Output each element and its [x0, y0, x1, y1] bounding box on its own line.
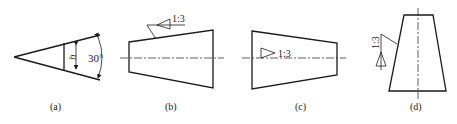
figure-d: [376, 8, 446, 99]
taper-label-b: 1:3: [172, 13, 185, 24]
taper-label-c: 1:3: [278, 48, 291, 59]
taper-label-d: 1:3: [370, 36, 381, 49]
caption-c: (c): [295, 101, 306, 113]
figure-b: [120, 19, 224, 88]
caption-d: (d): [410, 101, 422, 113]
taper-outline-b: [129, 30, 213, 88]
taper-outline-c: [252, 31, 337, 89]
taper-symbol-b: [157, 19, 170, 29]
taper-diagram: h 30° (a) 1:3 (b) 1:3 (c) 1:3 (d): [0, 0, 457, 124]
caption-b: (b): [165, 101, 177, 113]
caption-a: (a): [50, 101, 61, 113]
taper-symbol-c: [261, 48, 275, 58]
h-label: h: [66, 54, 78, 60]
taper-outline-d: [389, 15, 446, 91]
figure-c: [242, 31, 346, 89]
angle-label: 30°: [88, 52, 103, 64]
